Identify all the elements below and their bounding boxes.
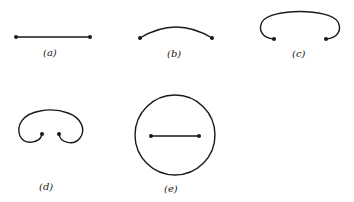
endpoint-e-left: [149, 134, 153, 138]
panel-a: (a): [14, 35, 92, 58]
loop-c: [261, 12, 340, 40]
arc-b: [140, 27, 212, 38]
panel-c: (c): [261, 12, 340, 60]
panel-e: (e): [135, 95, 215, 194]
panel-label-c: (c): [292, 48, 306, 59]
endpoint-b-right: [210, 36, 214, 40]
panel-label-b: (b): [167, 48, 181, 59]
endpoint-a-right: [88, 35, 92, 39]
panel-label-e: (e): [164, 183, 178, 194]
panel-d: (d): [19, 110, 83, 192]
panel-label-a: (a): [43, 47, 57, 58]
endpoint-a-left: [14, 35, 18, 39]
endpoint-c-left: [272, 37, 276, 41]
endpoint-e-right: [197, 134, 201, 138]
panel-b: (b): [138, 27, 214, 59]
curve-deformation-diagram: (a) (b) (c) (d) (e): [0, 0, 354, 202]
endpoint-d-right: [57, 132, 61, 136]
loop-d: [19, 110, 83, 143]
endpoint-d-left: [40, 132, 44, 136]
circle-e: [135, 95, 215, 175]
panel-label-d: (d): [39, 181, 53, 192]
endpoint-c-right: [324, 37, 328, 41]
endpoint-b-left: [138, 36, 142, 40]
